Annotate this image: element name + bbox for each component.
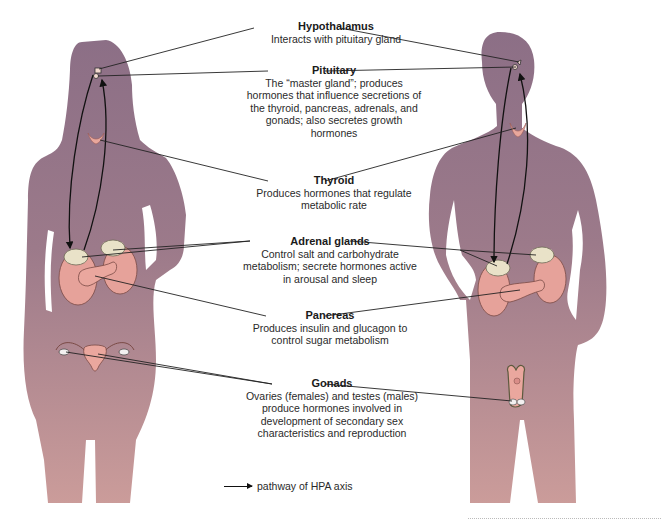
arrow-right-icon	[224, 486, 252, 487]
label-adrenal-glands: Adrenal glands Control salt and carbohyd…	[238, 235, 422, 285]
label-description: Interacts with pituitary gland	[246, 33, 426, 46]
label-description: Produces hormones that regulate metaboli…	[254, 187, 414, 212]
label-thyroid: Thyroid Produces hormones that regulate …	[254, 174, 414, 212]
label-description: Control salt and carbohydrate metabolism…	[238, 248, 422, 286]
label-title: Adrenal glands	[238, 235, 422, 248]
label-title: Gonads	[240, 377, 424, 390]
label-pancreas: Pancreas Produces insulin and glucagon t…	[246, 309, 414, 347]
label-description: The “master gland”; produces hormones th…	[244, 77, 424, 140]
label-title: Pancreas	[246, 309, 414, 322]
label-description: Ovaries (females) and testes (males) pro…	[240, 390, 424, 440]
label-title: Pituitary	[244, 64, 424, 77]
male-silhouette	[429, 32, 607, 503]
label-pituitary: Pituitary The “master gland”; produces h…	[244, 64, 424, 140]
legend-label: pathway of HPA axis	[257, 480, 353, 492]
label-title: Thyroid	[254, 174, 414, 187]
label-gonads: Gonads Ovaries (females) and testes (mal…	[240, 377, 424, 440]
label-title: Hypothalamus	[246, 20, 426, 33]
divider	[468, 518, 661, 519]
legend: pathway of HPA axis	[224, 480, 353, 492]
label-description: Produces insulin and glucagon to control…	[246, 322, 414, 347]
label-hypothalamus: Hypothalamus Interacts with pituitary gl…	[246, 20, 426, 45]
